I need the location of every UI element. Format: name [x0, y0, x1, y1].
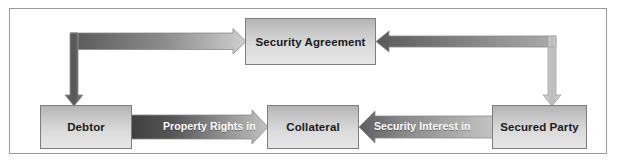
node-collateral-label: Collateral [286, 121, 339, 133]
node-security-agreement-label: Security Agreement [255, 36, 365, 48]
node-security-agreement[interactable]: Security Agreement [245, 18, 376, 65]
arrow-secured-party-to-security-agreement [376, 31, 548, 52]
node-debtor[interactable]: Debtor [40, 105, 132, 149]
node-collateral[interactable]: Collateral [267, 105, 359, 149]
arrow-security-interest-in [359, 111, 494, 143]
node-secured-party[interactable]: Secured Party [492, 105, 587, 149]
node-debtor-label: Debtor [67, 121, 105, 133]
diagram-canvas: Security Agreement Debtor Collateral Sec… [0, 0, 617, 166]
node-secured-party-label: Secured Party [500, 121, 579, 133]
arrow-security-agreement-to-debtor [65, 29, 246, 107]
arrow-property-rights-in [130, 110, 268, 144]
